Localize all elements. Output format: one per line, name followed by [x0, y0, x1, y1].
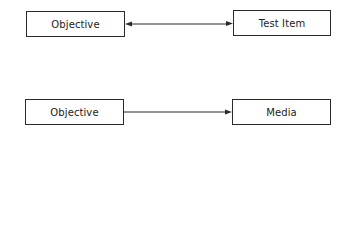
bidirectional-arrow-icon	[125, 21, 233, 27]
right-arrow-icon	[124, 110, 232, 115]
